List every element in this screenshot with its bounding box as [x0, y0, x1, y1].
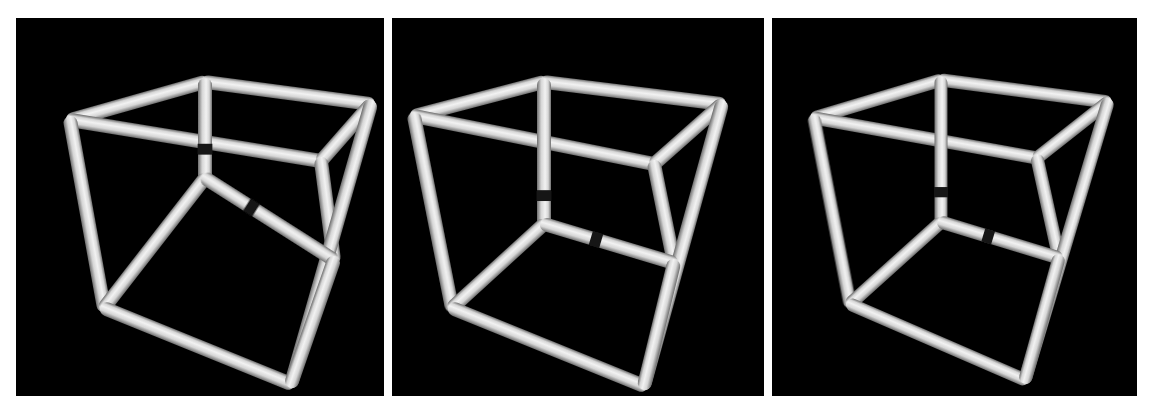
- cube-edge-bottom-back-left-to-center: [444, 216, 551, 316]
- cube-edge-vertical-back-left: [807, 113, 857, 309]
- cube-edge-vertical-back-left: [62, 115, 111, 313]
- cube-panel-1: [16, 18, 384, 396]
- cube-edge-top-front-left-to-front-top-right: [937, 73, 1113, 109]
- cube-edge-top-back-left-to-back-top-right: [809, 111, 1041, 165]
- cube-panel-3: [772, 18, 1137, 396]
- cube-edge-vertical-center-occluding-occlusion-gap: [934, 187, 948, 197]
- cube-edge-bottom-front-to-back-right: [636, 258, 681, 392]
- figure-root: [0, 0, 1153, 409]
- cube-edge-top-front-left-to-front-top-right: [200, 75, 375, 112]
- cube-edge-top-back-left-to-back-top-right: [65, 112, 326, 168]
- cube-edge-bottom-front-to-back-right: [283, 254, 342, 390]
- wireframe-cube-3: [772, 18, 1137, 396]
- cube-edge-vertical-center-occluding: [934, 76, 948, 225]
- cube-edge-vertical-back-left: [406, 111, 459, 313]
- cube-edge-top-back-left-to-back-top-right: [409, 108, 659, 171]
- cube-edge-bottom-back-left-to-center: [843, 215, 948, 312]
- cube-edge-vertical-center-occluding: [198, 78, 213, 182]
- cube-edge-bottom-back-left-to-center: [96, 171, 213, 316]
- wireframe-cube-2: [392, 18, 764, 396]
- cube-edge-top-front-left-to-front-top-right: [539, 75, 726, 112]
- cube-edge-bottom-back-left-to-front: [98, 300, 297, 392]
- cube-edge-vertical-center-occluding: [537, 78, 552, 228]
- wireframe-cube-1: [16, 18, 384, 396]
- cube-edge-vertical-center-occluding-occlusion-gap: [537, 190, 552, 201]
- cube-edge-bottom-back-left-to-front: [844, 297, 1031, 388]
- cube-edge-bottom-center-to-back-right: [538, 216, 680, 271]
- cube-edge-bottom-front-to-back-right: [1018, 253, 1067, 386]
- cube-edge-bottom-back-left-to-front: [446, 300, 650, 394]
- cube-panel-2: [392, 18, 764, 396]
- cube-edge-vertical-center-occluding-occlusion-gap: [198, 144, 213, 155]
